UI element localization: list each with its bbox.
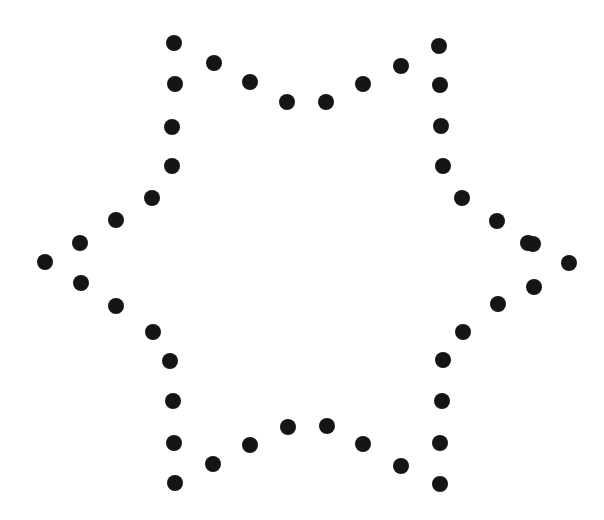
star-outline-dot <box>393 458 409 474</box>
star-outline-dot <box>205 456 221 472</box>
star-outline-dot <box>37 254 53 270</box>
star-outline-dot <box>145 324 161 340</box>
star-outline-dot <box>165 393 181 409</box>
star-outline-dot <box>319 418 335 434</box>
star-outline-dot <box>166 435 182 451</box>
star-outline-dot <box>435 158 451 174</box>
star-outline-dot <box>162 353 178 369</box>
star-outline-dot <box>433 118 449 134</box>
star-outline-dot <box>144 190 160 206</box>
star-outline-dot <box>318 94 334 110</box>
figure-canvas <box>0 0 604 520</box>
star-outline-dot <box>167 475 183 491</box>
star-outline-dot <box>355 76 371 92</box>
star-outline-dot <box>432 435 448 451</box>
star-outline-dot <box>164 158 180 174</box>
star-outline-dot <box>454 190 470 206</box>
star-outline-dot <box>435 352 451 368</box>
star-outline-dot <box>490 296 506 312</box>
star-outline-dot <box>108 298 124 314</box>
star-outline-dot <box>166 35 182 51</box>
star-outline-dot <box>393 58 409 74</box>
star-outline-dot <box>455 324 471 340</box>
star-outline-dot <box>280 419 296 435</box>
star-outline-dot <box>242 437 258 453</box>
star-outline-dot <box>432 77 448 93</box>
star-outline-dot <box>164 119 180 135</box>
star-outline-dot <box>355 436 371 452</box>
star-outline-dot <box>279 94 295 110</box>
star-outline-dot <box>431 38 447 54</box>
star-outline-dot <box>72 235 88 251</box>
star-outline-dot <box>108 212 124 228</box>
star-outline-dot <box>489 213 505 229</box>
star-outline-dot <box>525 236 541 252</box>
star-outline-dot <box>206 55 222 71</box>
star-outline-dot <box>434 393 450 409</box>
star-outline-dot <box>561 255 577 271</box>
star-outline-dot <box>242 74 258 90</box>
star-outline-dot <box>526 279 542 295</box>
star-outline-dot <box>167 76 183 92</box>
star-dot-layer <box>0 0 604 520</box>
star-outline-dot <box>73 275 89 291</box>
star-outline-dot <box>432 476 448 492</box>
